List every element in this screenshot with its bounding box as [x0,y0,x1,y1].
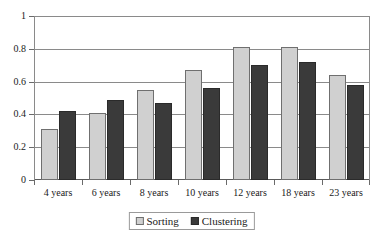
bar-group [178,16,226,180]
bar-group [322,16,370,180]
x-tick-label: 12 years [233,186,267,199]
bar-group [34,16,82,180]
y-tick-label: 0 [21,175,26,185]
y-tick-label: 1 [21,11,26,21]
x-tick-label: 8 years [140,186,169,199]
legend-swatch-icon [191,217,199,225]
bar-clustering [347,85,364,180]
bars-layer [34,16,370,180]
x-tick-mark [226,180,227,185]
legend-swatch-icon [135,217,143,225]
x-axis: 4 years6 years8 years10 years12 years18 … [34,186,370,200]
bar-clustering [251,65,268,180]
x-tick-label: 23 years [329,186,363,199]
legend-label: Clustering [202,216,248,227]
bar-sorting [233,47,250,180]
x-tick-mark [274,180,275,185]
bar-group [82,16,130,180]
x-tick-label: 18 years [281,186,315,199]
bar-sorting [281,47,298,180]
y-tick-label: 0.8 [14,44,27,54]
bar-clustering [299,62,316,180]
legend-entry-clustering[interactable]: Clustering [191,216,248,227]
bar-group [226,16,274,180]
legend-label: Sorting [146,216,178,227]
bar-sorting [137,90,154,180]
x-tick-mark [82,180,83,185]
x-tick-label: 10 years [185,186,219,199]
x-tick-label: 4 years [44,186,73,199]
bar-group [130,16,178,180]
bar-clustering [155,103,172,180]
bar-sorting [185,70,202,180]
y-tick-label: 0.4 [14,109,27,119]
x-tick-mark [178,180,179,185]
bar-group [274,16,322,180]
chart-legend: SortingClustering [128,212,254,230]
bar-sorting [329,75,346,180]
bar-clustering [59,111,76,180]
x-tick-mark [369,180,370,185]
legend-entry-sorting[interactable]: Sorting [135,216,178,227]
bar-clustering [107,100,124,180]
bar-clustering [203,88,220,180]
x-tick-label: 6 years [92,186,121,199]
bar-chart-figure: 00.20.40.60.81 4 years6 years8 years10 y… [0,0,383,238]
x-tick-mark [130,180,131,185]
bar-sorting [41,129,58,180]
bar-sorting [89,113,106,180]
y-tick-label: 0.6 [14,77,27,87]
y-axis: 00.20.40.60.81 [0,16,30,180]
y-tick-label: 0.2 [14,142,27,152]
x-tick-mark [34,180,35,185]
x-axis-ticks [34,180,370,185]
x-tick-mark [322,180,323,185]
